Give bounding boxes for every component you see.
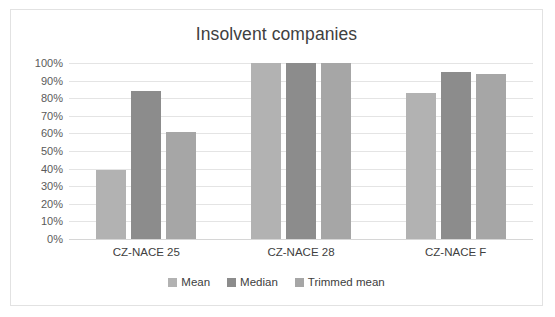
legend-label: Mean (181, 276, 210, 288)
bar-group (69, 63, 224, 239)
legend-item[interactable]: Mean (168, 276, 210, 288)
bar[interactable] (286, 63, 316, 239)
bar[interactable] (321, 63, 351, 239)
legend-item[interactable]: Trimmed mean (295, 276, 385, 288)
bar[interactable] (476, 74, 506, 239)
y-axis-tick-label: 0% (47, 234, 63, 245)
y-axis-tick-label: 100% (35, 58, 63, 69)
y-axis-tick-label: 30% (41, 181, 63, 192)
chart-container: Insolvent companies 100%90%80%70%60%50%4… (10, 9, 543, 306)
legend-swatch-icon (227, 278, 236, 287)
gridline (69, 239, 533, 240)
y-axis-tick-label: 50% (41, 146, 63, 157)
legend-label: Trimmed mean (308, 276, 385, 288)
y-axis-tick-label: 40% (41, 163, 63, 174)
x-axis: CZ-NACE 25CZ-NACE 28CZ-NACE F (69, 246, 533, 258)
bar-group (224, 63, 379, 239)
bar[interactable] (96, 170, 126, 239)
legend-label: Median (240, 276, 278, 288)
legend-swatch-icon (295, 278, 304, 287)
x-axis-category-label: CZ-NACE 25 (69, 246, 224, 258)
x-axis-category-label: CZ-NACE F (378, 246, 533, 258)
y-axis: 100%90%80%70%60%50%40%30%20%10%0% (11, 63, 63, 239)
y-axis-tick-label: 90% (41, 75, 63, 86)
y-axis-tick-label: 70% (41, 110, 63, 121)
y-axis-tick-label: 80% (41, 93, 63, 104)
chart-title: Insolvent companies (11, 24, 542, 45)
bar[interactable] (251, 63, 281, 239)
bar[interactable] (166, 132, 196, 239)
legend-item[interactable]: Median (227, 276, 278, 288)
bar[interactable] (441, 72, 471, 239)
x-axis-category-label: CZ-NACE 28 (224, 246, 379, 258)
y-axis-tick-label: 20% (41, 198, 63, 209)
plot-area (69, 63, 533, 239)
chart-legend: MeanMedianTrimmed mean (11, 276, 542, 288)
bars-layer (69, 63, 533, 239)
y-axis-tick-label: 10% (41, 216, 63, 227)
bar[interactable] (131, 91, 161, 239)
bar[interactable] (406, 93, 436, 239)
y-axis-tick-label: 60% (41, 128, 63, 139)
legend-swatch-icon (168, 278, 177, 287)
bar-group (378, 63, 533, 239)
